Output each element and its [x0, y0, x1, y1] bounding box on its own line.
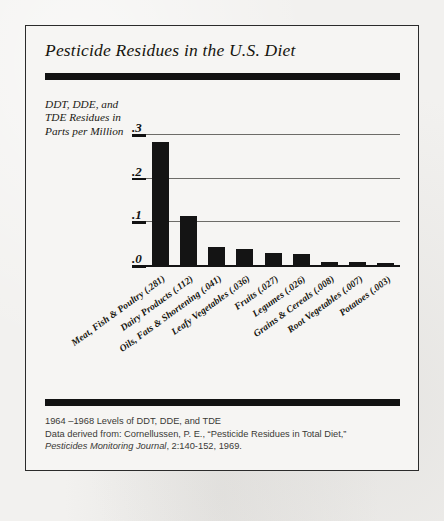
y-tick-label: .1: [132, 208, 147, 221]
bar: [293, 254, 310, 265]
page-title: Pesticide Residues in the U.S. Diet: [45, 40, 295, 61]
title-rule: [45, 73, 400, 80]
bar-series: [146, 134, 400, 265]
figure-frame: Pesticide Residues in the U.S. Diet DDT,…: [25, 25, 419, 471]
bar: [265, 253, 282, 265]
bar: [180, 216, 197, 265]
y-tick-label: .3: [132, 121, 147, 134]
figure-footer: 1964 –1968 Levels of DDT, DDE, and TDE D…: [45, 415, 405, 453]
y-tick-label: .0: [132, 252, 147, 265]
plot-area: .0.1.2.3: [132, 108, 400, 265]
bar: [152, 142, 169, 265]
bar: [236, 249, 253, 265]
footer-journal-name: Pesticides Monitoring Journal: [45, 441, 166, 451]
y-axis-caption: DDT, DDE, and TDE Residues in Parts per …: [45, 98, 127, 138]
y-tick-underline: [132, 134, 146, 137]
y-tick-underline: [132, 221, 146, 224]
footer-rule: [45, 399, 400, 406]
footer-line-1: 1964 –1968 Levels of DDT, DDE, and TDE: [45, 415, 405, 428]
x-axis-category-labels: Meat, Fish & Poultry (.281)Dairy Product…: [132, 265, 422, 375]
y-tick-underline: [132, 178, 146, 181]
footer-line-2: Data derived from: Cornellussen, P. E., …: [45, 428, 405, 441]
bar: [208, 247, 225, 265]
y-tick-label: .2: [132, 165, 147, 178]
footer-citation-detail: , 2:140-152, 1969.: [166, 441, 241, 451]
footer-line-3: Pesticides Monitoring Journal, 2:140-152…: [45, 440, 405, 453]
category-value: (.003): [366, 273, 392, 296]
